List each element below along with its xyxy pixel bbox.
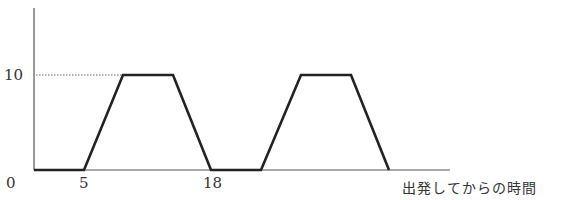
data-line: [34, 75, 389, 170]
x-tick-5: 5: [79, 174, 89, 192]
x-axis-label: 出発してからの時間（秒）: [402, 177, 566, 200]
chart-plot: [0, 0, 566, 200]
x-tick-18: 18: [203, 174, 222, 192]
y-tick-10: 10: [4, 66, 23, 84]
origin-label: 0: [6, 174, 16, 192]
